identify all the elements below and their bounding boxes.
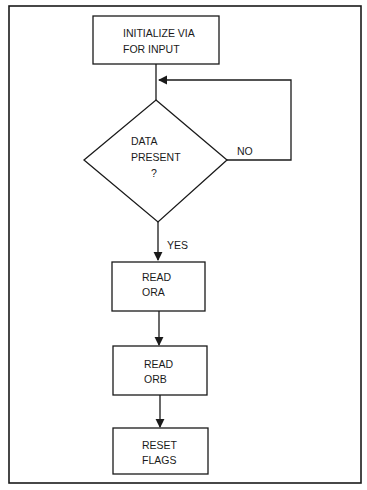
no-label: NO — [237, 145, 253, 157]
reset-flags-box — [113, 428, 208, 474]
init-label-line2: FOR INPUT — [123, 43, 180, 55]
decision-label-line1: DATA — [131, 135, 157, 147]
init-box — [93, 16, 219, 64]
read-orb-box — [113, 346, 207, 395]
read-orb-line2: ORB — [144, 373, 167, 385]
read-ora-line2: ORA — [142, 286, 165, 298]
read-ora-line1: READ — [142, 271, 172, 283]
flowchart: INITIALIZE VIA FOR INPUT NO DATA PRESENT… — [0, 0, 367, 490]
reset-flags-line2: FLAGS — [142, 454, 176, 466]
read-orb-line1: READ — [144, 358, 174, 370]
node-read-ora: READ ORA — [112, 262, 205, 311]
node-decision: DATA PRESENT ? — [84, 100, 227, 222]
decision-label-line3: ? — [151, 167, 157, 179]
decision-label-line2: PRESENT — [131, 151, 181, 163]
init-label-line1: INITIALIZE VIA — [123, 27, 195, 39]
reset-flags-line1: RESET — [142, 439, 178, 451]
node-init: INITIALIZE VIA FOR INPUT — [93, 16, 219, 64]
node-reset-flags: RESET FLAGS — [113, 428, 208, 474]
node-read-orb: READ ORB — [113, 346, 207, 395]
yes-label: YES — [167, 239, 188, 251]
